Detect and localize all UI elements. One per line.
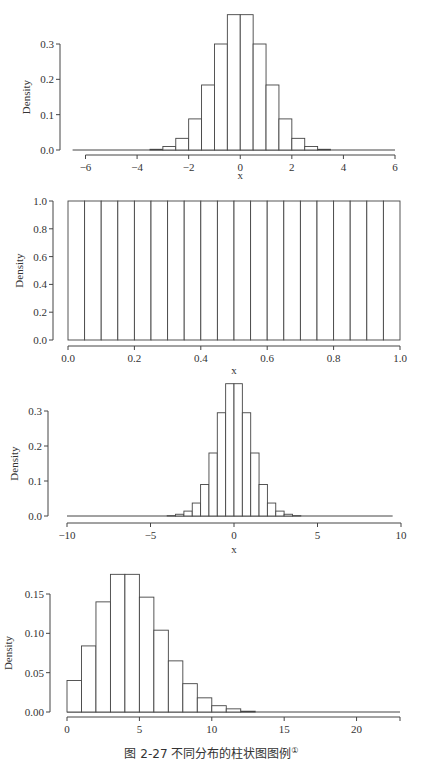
histogram-bar — [267, 503, 275, 516]
x-tick-label: 20 — [351, 723, 363, 735]
histogram-bar — [168, 661, 182, 712]
x-tick-label: −2 — [183, 161, 195, 173]
histogram-bar — [197, 698, 211, 712]
histogram-bar — [183, 684, 197, 712]
y-axis-label: Density — [13, 253, 25, 288]
histogram-bar — [163, 146, 176, 150]
figure-caption: 图 2-27 不同分布的柱状图图例① — [0, 744, 423, 761]
histogram-bar — [217, 201, 234, 340]
x-tick-label: 0.8 — [327, 352, 341, 364]
x-tick-label: 15 — [279, 723, 291, 735]
histogram-bar — [253, 44, 266, 150]
x-tick-label: 0.6 — [260, 352, 274, 364]
histogram-bar — [240, 15, 253, 150]
histogram-bar — [227, 15, 240, 150]
x-tick-label: 10 — [396, 529, 408, 541]
x-axis-label: x — [238, 169, 244, 181]
y-tick-label: 0.1 — [40, 109, 54, 121]
histogram-bar — [318, 149, 331, 150]
y-tick-label: 0.0 — [28, 510, 42, 522]
histogram-bar — [251, 453, 259, 516]
histogram-skewed: 0.000.050.100.15Density05101520 — [2, 574, 400, 735]
y-tick-label: 1.0 — [33, 195, 47, 207]
histogram-bar — [68, 201, 85, 340]
histogram-bar — [300, 201, 317, 340]
x-axis-label: x — [231, 364, 237, 376]
histogram-bar — [267, 201, 284, 340]
x-tick-label: 1.0 — [393, 352, 407, 364]
histogram-bar — [134, 201, 151, 340]
histogram-bar — [217, 413, 225, 516]
x-tick-label: 0 — [231, 529, 237, 541]
histogram-normal-2: 0.00.10.20.3Density−10−50510x — [8, 384, 407, 555]
histogram-bar — [67, 681, 81, 712]
y-tick-label: 0.05 — [25, 667, 45, 679]
histogram-bar — [226, 709, 240, 712]
histogram-bar — [367, 201, 384, 340]
histogram-bar — [234, 384, 242, 516]
x-tick-label: 0.2 — [128, 352, 142, 364]
x-axis-label: x — [231, 543, 237, 555]
histogram-bar — [125, 574, 139, 712]
histogram-normal-1: 0.00.10.20.3Density−6−4−20246x — [20, 15, 398, 181]
histogram-bar — [276, 511, 284, 516]
footnote-mark: ① — [291, 746, 298, 755]
histogram-bar — [317, 201, 334, 340]
histogram-bar — [214, 44, 227, 150]
histogram-bar — [226, 384, 234, 516]
x-tick-label: 2 — [289, 161, 295, 173]
x-tick-label: −6 — [80, 161, 92, 173]
histogram-bar — [284, 514, 292, 516]
histogram-bar — [184, 511, 192, 516]
x-tick-label: −5 — [145, 529, 157, 541]
histogram-bar — [96, 602, 110, 712]
histogram-bar — [242, 413, 250, 516]
histogram-bar — [279, 119, 292, 150]
histogram-bar — [85, 201, 102, 340]
x-tick-label: 0 — [64, 723, 70, 735]
x-tick-label: 4 — [341, 161, 347, 173]
histogram-bar — [81, 646, 95, 712]
histogram-bar — [234, 201, 251, 340]
x-tick-label: 0.0 — [61, 352, 75, 364]
histogram-bar — [201, 485, 209, 517]
y-axis-label: Density — [2, 635, 14, 670]
histogram-bar — [266, 85, 279, 150]
x-tick-label: −4 — [131, 161, 143, 173]
y-tick-label: 0.15 — [25, 588, 45, 600]
histogram-bar — [201, 201, 218, 340]
histogram-bar — [241, 711, 255, 712]
histogram-figure: 0.00.10.20.3Density−6−4−20246x 0.00.20.4… — [0, 0, 423, 768]
histogram-bar — [212, 706, 226, 712]
y-tick-label: 0.00 — [25, 706, 45, 718]
x-tick-label: 5 — [137, 723, 143, 735]
histogram-bar — [154, 630, 168, 712]
histogram-bar — [383, 201, 400, 340]
histogram-bar — [110, 574, 124, 712]
histogram-bar — [151, 201, 168, 340]
histogram-bar — [118, 201, 135, 340]
histogram-bar — [139, 597, 153, 712]
x-tick-label: 10 — [206, 723, 218, 735]
histogram-bar — [184, 201, 201, 340]
x-tick-label: 6 — [392, 161, 398, 173]
y-axis-label: Density — [20, 79, 32, 114]
histogram-bar — [209, 453, 217, 516]
x-tick-label: 0.4 — [194, 352, 208, 364]
y-tick-label: 0.3 — [28, 405, 42, 417]
caption-text: 图 2-27 不同分布的柱状图图例 — [124, 747, 291, 761]
y-tick-label: 0.2 — [33, 306, 47, 318]
histogram-bar — [251, 201, 268, 340]
histogram-bar — [192, 503, 200, 516]
histogram-bar — [259, 485, 267, 517]
y-tick-label: 0.6 — [33, 251, 47, 263]
histogram-bar — [284, 201, 301, 340]
y-tick-label: 0.0 — [40, 144, 54, 156]
histogram-bar — [101, 201, 118, 340]
y-tick-label: 0.2 — [40, 73, 54, 85]
histogram-bar — [176, 514, 184, 516]
histogram-bar — [202, 85, 215, 150]
histogram-bar — [189, 119, 202, 150]
histogram-bar — [292, 138, 305, 150]
y-tick-label: 0.4 — [33, 278, 47, 290]
